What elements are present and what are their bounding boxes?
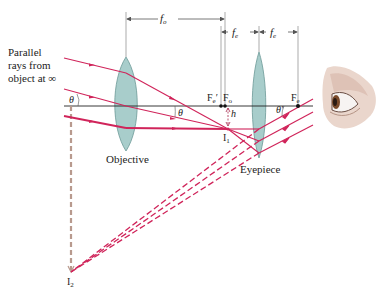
theta-left-arc: [77, 94, 79, 106]
theta-prime-label: θ′: [276, 104, 283, 116]
image-point-I1: [227, 128, 230, 131]
Fo-label: Fo: [223, 92, 232, 107]
f-e-label-1: fe: [232, 26, 238, 42]
objective-label: Objective: [106, 153, 149, 165]
Fe-prime-label: Fe′: [207, 92, 218, 107]
f-e-label-2: fe: [270, 26, 276, 42]
telescope-diagram: [0, 0, 381, 299]
h-label: h: [231, 108, 236, 120]
source-label-line1: Parallel: [8, 46, 42, 58]
incoming-rays: [64, 58, 228, 130]
eyepiece-label: Eyepiece: [240, 163, 280, 175]
I1-label: I1: [223, 132, 230, 147]
eyepiece-lens: [252, 52, 266, 158]
f-o-label: fo: [160, 12, 167, 28]
theta-left-label: θ: [69, 94, 74, 106]
exit-rays: [259, 99, 313, 153]
source-label-line2: rays from: [8, 59, 50, 71]
h-arrow: [226, 108, 230, 126]
source-label-line3: object at ∞: [8, 72, 56, 84]
theta-mid-label: θ: [178, 107, 183, 119]
Fe-label: Fe: [291, 92, 300, 107]
eye-illustration: [322, 66, 375, 128]
I2-label: I2: [67, 276, 74, 291]
virtual-rays: [71, 129, 259, 272]
